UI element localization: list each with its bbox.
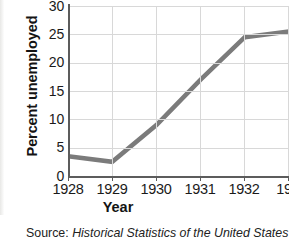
source-prefix-label: Source: — [26, 226, 69, 240]
source-title-text: Historical Statistics of the United Stat… — [72, 226, 288, 240]
gridline-y-10 — [68, 119, 289, 120]
gridline-x-1932 — [244, 6, 245, 176]
x-tick-label-1933: 193 — [265, 181, 289, 197]
y-tick-label-25: 25 — [30, 26, 64, 42]
gridline-x-1931 — [200, 6, 201, 176]
gridline-y-15 — [68, 91, 289, 92]
y-tick-label-15: 15 — [30, 83, 64, 99]
y-tick-label-30: 30 — [30, 0, 64, 14]
x-tick-label-1930: 1930 — [133, 181, 179, 197]
gridline-y-5 — [68, 148, 289, 149]
unemployment-line-chart: Percent unemployed 30 25 20 15 10 5 0 19… — [0, 0, 289, 251]
gridline-y-20 — [68, 63, 289, 64]
y-tick-label-5: 5 — [30, 139, 64, 155]
y-tick-label-20: 20 — [30, 54, 64, 70]
gridline-y-30 — [68, 6, 289, 7]
x-tick-label-1928: 1928 — [45, 181, 91, 197]
x-tick-label-1929: 1929 — [89, 181, 135, 197]
x-axis-line — [68, 176, 289, 178]
gridline-x-1930 — [156, 6, 157, 176]
x-tick-label-1932: 1932 — [221, 181, 267, 197]
x-tick-label-1931: 1931 — [177, 181, 223, 197]
source-caption: Source: Historical Statistics of the Uni… — [26, 226, 288, 240]
x-axis-title: Year — [0, 199, 236, 215]
y-tick-label-10: 10 — [30, 111, 64, 127]
gridline-x-1933 — [288, 6, 289, 176]
plot-area — [68, 6, 289, 176]
gridline-y-25 — [68, 34, 289, 35]
y-axis-line — [68, 4, 70, 178]
gridline-x-1929 — [112, 6, 113, 176]
